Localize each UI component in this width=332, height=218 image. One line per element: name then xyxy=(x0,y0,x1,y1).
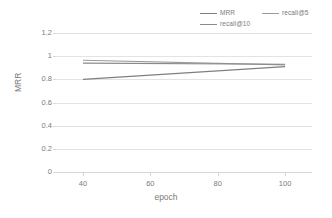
y-tick-label: 0 xyxy=(48,168,52,176)
plot-area: 00.20.40.60.811.2 xyxy=(56,33,312,172)
x-tick-mark xyxy=(218,173,219,176)
legend-label-mrr: MRR xyxy=(220,9,235,17)
chart-legend: MRR recall@5 recall@10 xyxy=(196,9,332,33)
x-tick-mark xyxy=(83,173,84,176)
legend-item-mrr: MRR xyxy=(200,9,235,17)
series-lines xyxy=(56,33,312,172)
line-chart: MRR recall@5 recall@10 00.20.40.60.811.2… xyxy=(0,0,332,218)
y-tick-label: 0.2 xyxy=(42,145,52,153)
x-tick-mark xyxy=(150,173,151,176)
legend-swatch-recall-10 xyxy=(200,24,217,25)
series-line-MRR xyxy=(83,67,285,80)
x-tick-mark xyxy=(285,173,286,176)
legend-swatch-mrr xyxy=(200,13,217,14)
series-line-recall-10 xyxy=(83,63,285,64)
y-axis-title: MRR xyxy=(13,73,23,92)
y-tick-label: 0.6 xyxy=(42,99,52,107)
x-tick-label: 60 xyxy=(146,179,154,188)
legend-item-recall-5: recall@5 xyxy=(262,9,309,17)
x-tick-label: 100 xyxy=(279,179,292,188)
x-axis-title: epoch xyxy=(0,192,332,202)
legend-swatch-recall-5 xyxy=(262,13,279,14)
y-tick-label: 0.4 xyxy=(42,122,52,130)
legend-item-recall-10: recall@10 xyxy=(200,20,250,28)
y-tick-label: 0.8 xyxy=(42,75,52,83)
y-tick-label: 1.2 xyxy=(42,29,52,37)
x-tick-label: 40 xyxy=(79,179,87,188)
legend-label-recall-10: recall@10 xyxy=(220,20,250,28)
y-tick-label: 1 xyxy=(48,52,52,60)
legend-label-recall-5: recall@5 xyxy=(282,9,309,17)
x-tick-label: 80 xyxy=(214,179,222,188)
x-axis: 406080100 xyxy=(56,172,312,173)
